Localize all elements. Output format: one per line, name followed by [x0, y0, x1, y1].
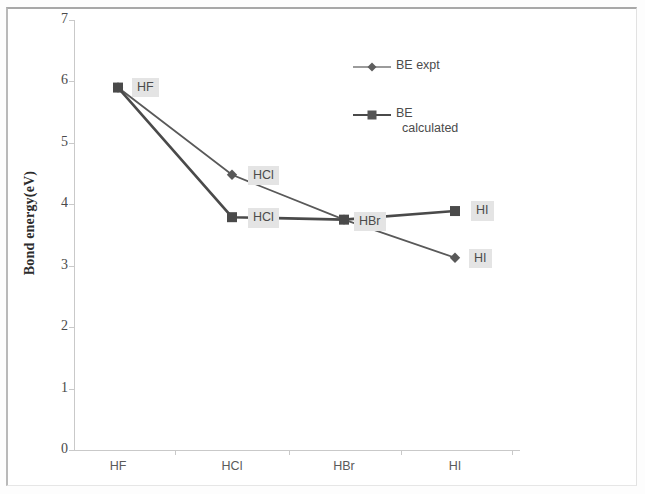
data-point-marker: [113, 83, 123, 93]
legend-label-line-1: BE expt: [396, 58, 440, 72]
legend-entry-be-expt[interactable]: BE expt: [352, 58, 502, 78]
plot-area: Bond energy(eV) 76543210 HFHClHBrHI HFHC…: [0, 0, 645, 494]
data-point-label: HBr: [354, 212, 386, 232]
chart-legend: BE expt BE calculated: [352, 58, 502, 154]
chart-page: Bond energy(eV) 76543210 HFHClHBrHI HFHC…: [0, 0, 645, 494]
data-point-label: HCl: [248, 166, 279, 186]
data-point-marker: [339, 215, 349, 225]
legend-label-be-expt: BE expt: [396, 58, 440, 73]
data-point-label: HCl: [248, 208, 279, 228]
data-point-label: HI: [469, 249, 492, 269]
diamond-marker-icon: [352, 61, 392, 73]
series-plot: [0, 0, 645, 494]
legend-label-line-2: calculated: [402, 121, 458, 136]
data-point-label: HF: [132, 78, 159, 98]
data-point-marker: [450, 206, 460, 216]
legend-label-be-calculated: BE calculated: [396, 106, 458, 136]
legend-entry-be-calculated[interactable]: BE calculated: [352, 106, 502, 126]
square-marker-icon: [352, 109, 392, 121]
legend-label-line-1: BE: [396, 106, 413, 120]
data-point-label: HI: [471, 201, 494, 221]
data-point-marker: [450, 253, 460, 263]
data-point-marker: [227, 212, 237, 222]
